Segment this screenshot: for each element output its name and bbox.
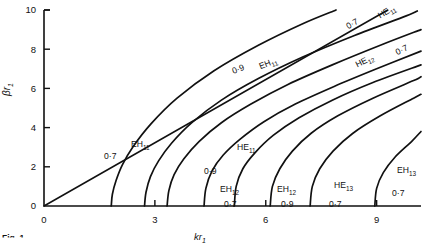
curve-label-text: 0·7 (329, 199, 341, 209)
curve-label-text: 0·9 (204, 166, 216, 176)
y-tick-label: 10 (25, 4, 36, 15)
curve-label-text: EH (220, 184, 232, 194)
mode-curve (111, 10, 336, 206)
y-tick-label: 8 (31, 44, 36, 55)
curve-label-text: 0·7 (104, 151, 116, 161)
curve-label: 0·7 (329, 200, 341, 209)
curve-label-subscript: 12 (289, 189, 296, 196)
y-axis-title-sub: 1 (7, 83, 14, 87)
x-tick-label: 3 (152, 214, 157, 225)
curve-label-text: EH (131, 139, 143, 149)
y-axis-title: βr1 (1, 83, 14, 96)
curve-label-text: HE (334, 180, 346, 190)
curve-label: EH12 (220, 185, 239, 196)
mode-curve (145, 11, 418, 206)
curve-label: 0·9 (281, 200, 293, 209)
curve-label: EH13 (397, 166, 416, 177)
curve-label: EH12 (277, 185, 296, 196)
curve-label-subscript: 13 (409, 170, 416, 177)
tick-labels-group: 02468100369kr1 (25, 4, 379, 243)
curve-label: EH11 (131, 140, 150, 151)
curve-label-text: 0·7 (392, 188, 404, 198)
curve-label: 0·7 (224, 200, 236, 209)
curve-label-subscript: 11 (143, 144, 150, 151)
curve-label: 0·7 (392, 189, 404, 198)
mode-curve (44, 10, 388, 206)
curve-label: 0·9 (204, 167, 216, 176)
curve-label-subscript: 13 (346, 185, 353, 192)
y-tick-label: 4 (31, 122, 36, 133)
curve-label: 0·7 (104, 152, 116, 161)
y-tick-label: 2 (31, 161, 36, 172)
curve-label: HE13 (334, 181, 353, 192)
x-tick-label: 6 (263, 214, 268, 225)
axes-group (44, 10, 421, 206)
y-tick-label: 0 (31, 200, 36, 211)
axis-lines (44, 10, 421, 206)
curve-label-subscript: 12 (232, 189, 239, 196)
curve-label-text: EH (397, 165, 409, 175)
curve-label-text: 0·9 (281, 199, 293, 209)
x-axis-title: kr1 (194, 231, 206, 244)
dispersion-chart: 02468100369kr1 (0, 0, 433, 249)
curve-label-subscript: 11 (249, 147, 256, 154)
figure-container: 02468100369kr1 βr1 EH110·70·9EH110·7HE11… (0, 0, 433, 249)
y-axis-title-base: βr (1, 87, 12, 96)
curves-group (44, 10, 421, 206)
y-tick-label: 6 (31, 83, 36, 94)
curve-label-text: HE (237, 142, 249, 152)
mode-curve (167, 30, 421, 206)
curve-label-text: 0·7 (224, 199, 236, 209)
mode-curve (234, 65, 421, 206)
x-tick-label: 9 (374, 214, 379, 225)
curve-label-text: EH (277, 184, 289, 194)
x-tick-label: 0 (41, 214, 46, 225)
curve-label: HE11 (237, 143, 256, 154)
